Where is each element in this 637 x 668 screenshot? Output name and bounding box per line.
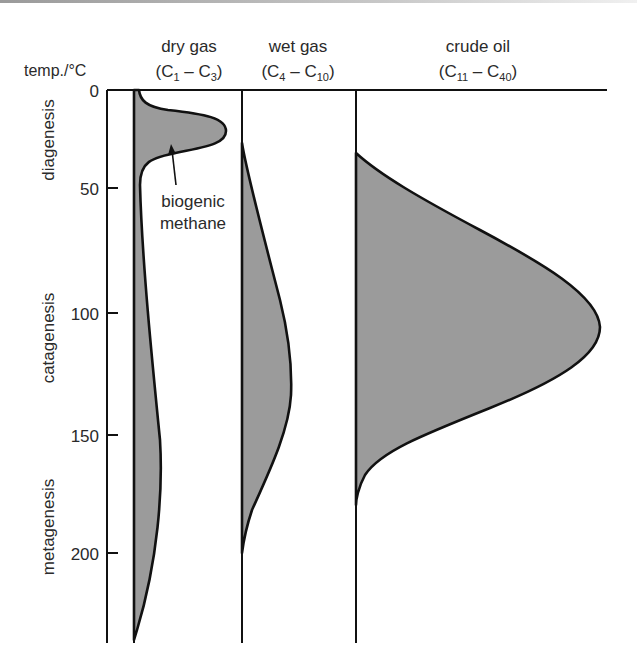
- stage-label-metagenesis: metagenesis: [39, 479, 58, 575]
- tick-label-0: 0: [90, 82, 99, 101]
- stage-label-diagenesis: diagenesis: [39, 99, 58, 180]
- annotation-methane: methane: [160, 214, 226, 233]
- stage-label-catagenesis: catagenesis: [39, 293, 58, 384]
- wet-gas-curve: [242, 143, 291, 553]
- column-title-dry-gas: dry gas: [161, 37, 217, 56]
- tick-label-100: 100: [71, 305, 99, 324]
- y-axis-title: temp./°C: [24, 62, 86, 79]
- tick-label-200: 200: [71, 545, 99, 564]
- annotation-arrow-shaft: [172, 150, 176, 185]
- tick-label-50: 50: [80, 180, 99, 199]
- column-formula-wet-gas: (C4 – C10): [261, 62, 334, 83]
- column-formula-dry-gas: (C1 – C3): [155, 62, 222, 83]
- tick-label-150: 150: [71, 427, 99, 446]
- column-title-wet-gas: wet gas: [268, 37, 328, 56]
- column-formula-crude-oil: (C11 – C40): [439, 62, 517, 83]
- crude-oil-curve: [356, 153, 600, 505]
- annotation-biogenic: biogenic: [161, 192, 225, 211]
- dry-gas-curve: [134, 90, 226, 640]
- hydrocarbon-generation-chart: temp./°C dry gas (C1 – C3) wet gas (C4 –…: [0, 0, 637, 668]
- column-title-crude-oil: crude oil: [446, 37, 510, 56]
